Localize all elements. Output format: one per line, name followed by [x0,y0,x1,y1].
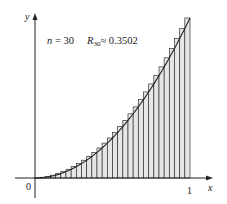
riemann-bar [154,76,159,178]
origin-label: 0 [26,181,31,192]
riemann-bar [180,29,185,179]
riemann-bar [169,48,174,178]
riemann-bar [144,92,149,178]
riemann-bar [113,133,118,179]
riemann-bar [107,138,112,178]
x-axis-arrow-icon [206,176,213,181]
y-axis-arrow-icon [33,13,38,20]
x-tick-one: 1 [187,185,192,196]
riemann-bar [102,143,107,178]
riemann-sum-chart: 0 1 x y n = 30 R30≈ 0.3502 [0,0,227,204]
riemann-bar [185,18,190,178]
annotation-n: n = 30 [47,35,74,46]
y-axis-label: y [24,11,30,22]
riemann-bar [133,107,138,178]
annotation-r: R30≈ 0.3502 [86,35,138,48]
riemann-bar [149,84,154,178]
riemann-bar [175,39,180,178]
x-axis-label: x [207,182,213,193]
riemann-bar [159,67,164,178]
riemann-bar [118,127,123,178]
riemann-bar [138,100,143,178]
riemann-bar [123,120,128,178]
riemann-bar [164,58,169,178]
riemann-bar [128,114,133,178]
